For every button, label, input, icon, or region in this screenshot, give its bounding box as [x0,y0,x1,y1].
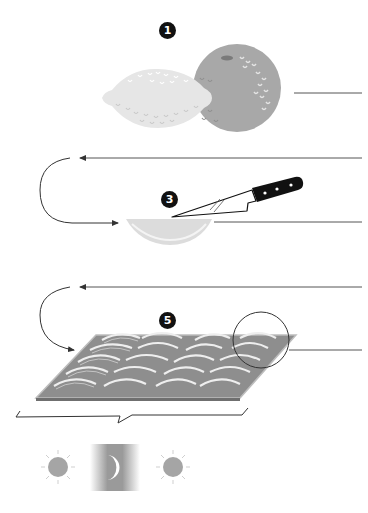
night-panel [90,444,140,491]
loop-arrow [40,158,118,223]
process-illustration [0,0,368,513]
knife-icon [172,177,303,217]
drying-tray [36,333,296,401]
orange-fruit [193,44,281,132]
step-badge-1: 1 [159,22,176,39]
bracket [16,408,248,423]
step-badge-3: 3 [161,191,178,208]
loop-arrow [40,287,74,350]
sun-icon [156,450,190,484]
step-badge-5: 5 [159,312,176,329]
fruit-slice [126,219,212,245]
sun-icon [41,450,75,484]
